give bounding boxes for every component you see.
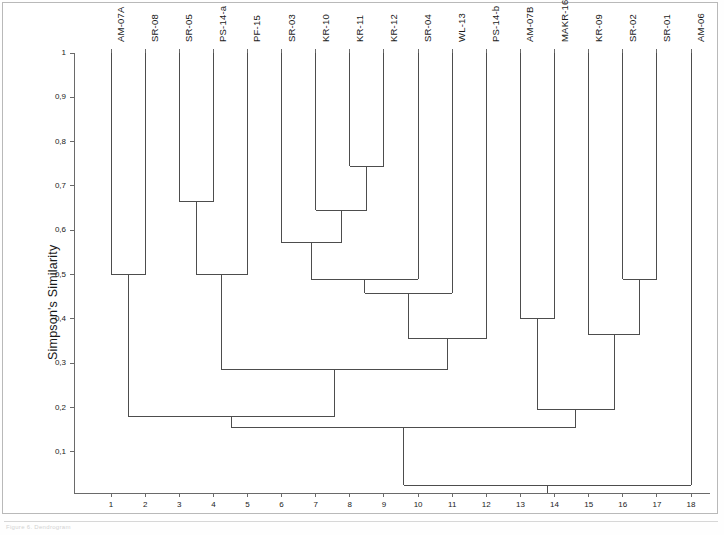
x-axis-tick-label: 16: [612, 500, 634, 509]
x-axis-tick-label: 7: [305, 500, 327, 509]
y-axis-tick-label: 0,3: [44, 358, 66, 367]
leaf-label: SR-01: [661, 14, 672, 42]
leaf-label: AM-07B: [524, 6, 535, 42]
leaf-label: SR-04: [422, 14, 433, 42]
x-axis-tick-label: 14: [544, 500, 566, 509]
x-axis-tick-label: 13: [509, 500, 531, 509]
y-axis-tick-label: 0,4: [44, 314, 66, 323]
y-axis-tick-label: 0,9: [44, 92, 66, 101]
leaf-label: WL-13: [456, 13, 467, 42]
leaf-label: KR-11: [354, 15, 365, 42]
x-axis-tick-label: 6: [271, 500, 293, 509]
x-axis-tick-label: 11: [441, 500, 463, 509]
leaf-label: PF-15: [251, 15, 262, 42]
leaf-label: SR-08: [149, 14, 160, 42]
leaf-label: KR-10: [320, 14, 331, 42]
y-axis-tick-label: 0,8: [44, 137, 66, 146]
x-axis-tick-label: 18: [680, 500, 702, 509]
y-axis-tick-label: 0,5: [44, 270, 66, 279]
y-axis-title: Simpson's Similarity: [46, 245, 60, 360]
y-axis-tick-label: 0,1: [44, 447, 66, 456]
dendrogram-tree-svg: [0, 0, 724, 535]
x-axis-tick-label: 8: [339, 500, 361, 509]
leaf-label: SR-05: [183, 14, 194, 42]
leaf-label: PS-14-b: [490, 6, 501, 42]
leaf-label: AM-06: [695, 13, 706, 42]
x-axis-tick-label: 3: [168, 500, 190, 509]
x-axis-tick-label: 10: [407, 500, 429, 509]
x-axis-tick-label: 4: [202, 500, 224, 509]
y-axis-tick-label: 0,7: [44, 181, 66, 190]
dendrogram-figure: Simpson's Similarity AM-07ASR-08SR-05PS-…: [0, 0, 724, 535]
y-axis-tick-label: 0,6: [44, 225, 66, 234]
leaf-label: MAKR-16: [559, 0, 570, 42]
leaf-label: SR-03: [286, 14, 297, 42]
dendrogram-plot-area: [0, 0, 724, 535]
leaf-label: PS-14-a: [217, 6, 228, 42]
x-axis-tick-label: 15: [578, 500, 600, 509]
x-axis-tick-label: 12: [475, 500, 497, 509]
figure-caption: Figure 6. Dendrogram: [6, 524, 71, 530]
x-axis-tick-label: 2: [134, 500, 156, 509]
y-axis-tick-label: 1: [44, 48, 66, 57]
x-axis-tick-label: 1: [100, 500, 122, 509]
leaf-label: KR-12: [388, 14, 399, 42]
x-axis-tick-label: 5: [236, 500, 258, 509]
caption-divider: [4, 521, 718, 522]
x-axis-tick-label: 17: [646, 500, 668, 509]
y-axis-tick-label: 0,2: [44, 403, 66, 412]
leaf-label: KR-09: [593, 14, 604, 42]
leaf-label: AM-07A: [115, 6, 126, 42]
x-axis-tick-label: 9: [373, 500, 395, 509]
leaf-label: SR-02: [627, 14, 638, 42]
